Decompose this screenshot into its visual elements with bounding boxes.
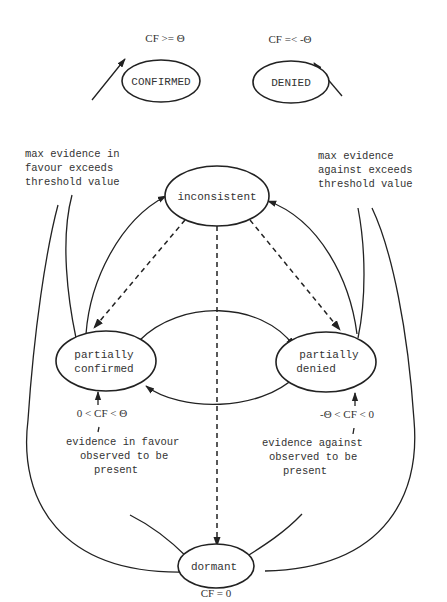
edge-partially-denied-to-partially-confirmed <box>146 376 296 404</box>
edge-partially-confirmed-to-inconsistent <box>86 196 166 334</box>
svg-text:favour exceeds: favour exceeds <box>25 162 113 174</box>
label-favour-present: evidence in favour observed to be presen… <box>66 436 179 476</box>
svg-text:observed to be: observed to be <box>269 451 357 463</box>
edge-inconsistent-to-partially-denied <box>250 220 340 330</box>
edge-partially-denied-to-denied <box>314 63 364 338</box>
label-against-threshold: max evidence against exceeds threshold v… <box>318 150 413 190</box>
state-partially-confirmed[interactable]: partially confirmed <box>56 331 156 391</box>
denied-condition: CF =< -Θ <box>269 33 312 45</box>
state-denied[interactable]: DENIED <box>253 61 329 103</box>
svg-text:observed to be: observed to be <box>80 450 168 462</box>
svg-text:evidence against: evidence against <box>262 437 363 449</box>
label-favour-threshold: max evidence in favour exceeds threshold… <box>25 148 120 188</box>
svg-text:threshold value: threshold value <box>25 176 120 188</box>
svg-text:present: present <box>283 465 327 477</box>
state-partially-denied-label-2: denied <box>296 363 336 375</box>
label-against-present: evidence against observed to be present <box>262 437 363 477</box>
svg-text:against exceeds: against exceeds <box>318 164 413 176</box>
state-denied-label: DENIED <box>271 77 311 89</box>
dormant-condition: CF = 0 <box>201 587 232 599</box>
edge-partially-denied-to-inconsistent <box>268 201 357 334</box>
edge-partially-confirmed-to-confirmed <box>66 59 125 338</box>
partially-confirmed-condition: 0 < CF < Θ <box>77 407 127 419</box>
state-partially-confirmed-label-2: confirmed <box>74 363 133 375</box>
state-dormant-label: dormant <box>191 561 237 573</box>
svg-text:evidence in favour: evidence in favour <box>66 436 179 448</box>
confirmed-condition: CF >= Θ <box>145 32 184 44</box>
state-dormant[interactable]: dormant <box>178 544 254 588</box>
partially-denied-condition: -Θ < CF < 0 <box>320 408 374 420</box>
state-diagram: CONFIRMED CF >= Θ DENIED CF =< -Θ incons… <box>0 0 447 602</box>
state-inconsistent[interactable]: inconsistent <box>165 166 269 226</box>
state-partially-denied[interactable]: partially denied <box>276 332 376 392</box>
edge-inconsistent-to-partially-confirmed <box>94 220 185 328</box>
svg-text:max evidence: max evidence <box>318 150 394 162</box>
state-partially-denied-label-1: partially <box>299 349 359 361</box>
state-confirmed[interactable]: CONFIRMED <box>122 60 200 102</box>
state-confirmed-label: CONFIRMED <box>131 76 191 88</box>
state-inconsistent-label: inconsistent <box>177 191 256 203</box>
svg-text:present: present <box>94 464 138 476</box>
svg-text:max evidence in: max evidence in <box>25 148 120 160</box>
state-partially-confirmed-label-1: partially <box>74 349 134 361</box>
svg-text:threshold value: threshold value <box>318 178 413 190</box>
